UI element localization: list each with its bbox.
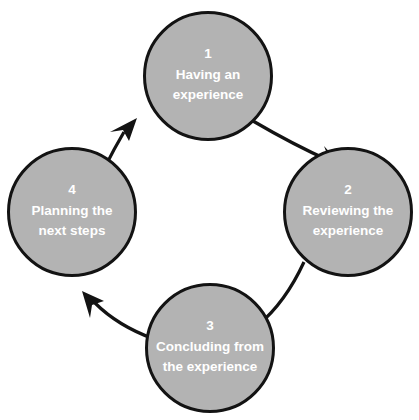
node-4-number: 4 — [68, 182, 76, 197]
node-1-label-line1: Having an — [176, 67, 241, 82]
arrow-3-to-4 — [82, 291, 154, 339]
node-2-label-line2: experience — [313, 223, 384, 238]
node-1-number: 1 — [204, 46, 212, 61]
cycle-diagram: 1 Having an experience 2 Reviewing the e… — [0, 0, 419, 420]
arrow-3-to-4-head — [82, 291, 104, 318]
node-2-label-line1: Reviewing the — [303, 203, 394, 218]
cycle-diagram-canvas: 1 Having an experience 2 Reviewing the e… — [0, 0, 419, 420]
arrow-4-to-1-head — [110, 118, 137, 141]
node-1-label-line2: experience — [173, 87, 244, 102]
node-4[interactable]: 4 Planning the next steps — [9, 149, 136, 276]
node-4-label-line1: Planning the — [32, 203, 113, 218]
node-1[interactable]: 1 Having an experience — [145, 13, 272, 140]
node-2[interactable]: 2 Reviewing the experience — [285, 149, 412, 276]
arrow-3-to-4-shaft — [95, 303, 154, 339]
node-3-number: 3 — [206, 318, 214, 333]
node-3-label-line2: the experience — [163, 359, 258, 374]
node-2-number: 2 — [344, 182, 352, 197]
node-4-label-line2: next steps — [39, 223, 106, 238]
node-3-label-line1: Concluding from — [156, 339, 264, 354]
node-3[interactable]: 3 Concluding from the experience — [147, 285, 274, 412]
